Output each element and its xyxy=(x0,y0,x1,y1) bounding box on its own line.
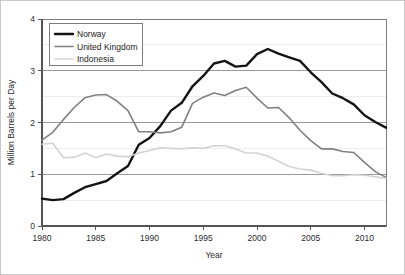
y-tick-label: 1 xyxy=(30,169,35,179)
chart-figure: 012341980198519901995200020052010YearMil… xyxy=(0,0,405,275)
x-axis-title: Year xyxy=(205,250,222,260)
y-tick-label: 3 xyxy=(30,66,35,76)
y-axis-title: Million Barrels per Day xyxy=(6,79,16,165)
legend-label-norway: Norway xyxy=(77,29,107,39)
legend-label-indonesia: Indonesia xyxy=(77,54,114,64)
y-tick-label: 4 xyxy=(30,14,35,24)
series-line-united-kingdom xyxy=(42,87,386,177)
y-tick-label: 2 xyxy=(30,118,35,128)
x-tick-label: 1990 xyxy=(140,233,159,243)
x-tick-label: 1985 xyxy=(86,233,105,243)
x-tick-label: 1980 xyxy=(33,233,52,243)
x-tick-label: 2005 xyxy=(301,233,320,243)
x-tick-label: 2010 xyxy=(355,233,374,243)
line-chart: 012341980198519901995200020052010YearMil… xyxy=(1,1,405,275)
legend-label-united-kingdom: United Kingdom xyxy=(77,42,137,52)
x-tick-label: 2000 xyxy=(248,233,267,243)
x-tick-label: 1995 xyxy=(194,233,213,243)
y-tick-label: 0 xyxy=(30,221,35,231)
series-line-norway xyxy=(42,49,386,200)
